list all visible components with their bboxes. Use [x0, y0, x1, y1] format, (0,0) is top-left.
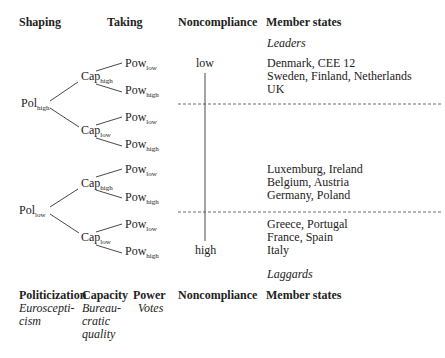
member-states-line: Germany, Poland	[267, 189, 350, 202]
legend-power-line: Votes	[138, 302, 163, 315]
branch-line	[50, 214, 79, 233]
node-pow-low: Powlow	[125, 163, 157, 181]
node-cap-high: Caphigh	[81, 70, 113, 88]
header-shaping: Shaping	[19, 16, 61, 29]
node-pow-high: Powhigh	[125, 84, 159, 102]
branch-line	[50, 82, 78, 101]
legend-header-member-states: Member states	[266, 289, 341, 302]
label-leaders: Leaders	[267, 37, 306, 50]
node-pow-high: Powhigh	[125, 191, 159, 209]
node-pow-low: Powlow	[125, 111, 157, 129]
node-pow-high: Powhigh	[125, 245, 159, 263]
node-pow-low: Powlow	[125, 218, 157, 236]
node-cap-high: Caphigh	[81, 177, 113, 195]
legend-politicization-line: cism	[19, 315, 41, 328]
noncompliance-low-label: low	[196, 57, 214, 70]
member-states-line: Italy	[267, 244, 289, 257]
legend-header-noncompliance: Noncompliance	[178, 289, 257, 302]
noncompliance-high-label: high	[195, 244, 216, 257]
node-pow-high: Powhigh	[125, 138, 159, 156]
legend-capacity-line: quality	[82, 328, 115, 341]
node-pol-high: Polhigh	[21, 97, 49, 115]
header-member-states: Member states	[266, 16, 341, 29]
branch-line	[50, 108, 79, 127]
header-noncompliance: Noncompliance	[178, 16, 257, 29]
label-laggards: Laggards	[267, 268, 313, 281]
branch-line	[50, 189, 78, 207]
member-states-line: UK	[267, 83, 284, 96]
node-pow-low: Powlow	[125, 57, 157, 75]
node-cap-low: Caplow	[81, 124, 111, 142]
header-taking: Taking	[107, 16, 143, 29]
member-states-line: Sweden, Finland, Netherlands	[267, 70, 412, 83]
node-pol-low: Pollow	[19, 204, 46, 222]
node-cap-low: Caplow	[81, 231, 111, 249]
